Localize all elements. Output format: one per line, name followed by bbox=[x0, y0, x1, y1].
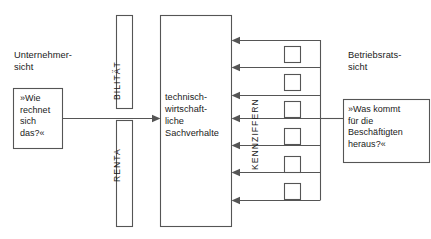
rentabilitaet-label-lower: RENTA bbox=[112, 148, 122, 182]
kennziffer-arrowhead-5 bbox=[232, 142, 241, 149]
central-subject-label: technisch- wirtschaft- liche Sachverhalt… bbox=[165, 92, 233, 140]
indicator-square-1 bbox=[285, 47, 301, 63]
left-perspective-caption: Unternehmer- sicht bbox=[14, 49, 106, 73]
kennziffer-arrowhead-1 bbox=[232, 37, 241, 44]
indicator-square-6 bbox=[285, 184, 301, 200]
kennziffern-label: KENNZIFFERN bbox=[250, 98, 260, 170]
rentabilitaet-label-upper: BILITÄT bbox=[112, 61, 122, 100]
kennziffer-arrowhead-7 bbox=[232, 197, 241, 204]
indicator-square-5 bbox=[285, 157, 301, 173]
indicator-square-3 bbox=[285, 102, 301, 118]
kennziffer-arrowhead-6 bbox=[232, 169, 241, 176]
left-quote-text: »Wie rechnet sich das?« bbox=[20, 93, 66, 140]
right-quote-text: »Was kommt für die Beschäftigten heraus?… bbox=[348, 104, 426, 151]
right-perspective-caption: Betriebsrats- sicht bbox=[348, 49, 428, 73]
left-connector-arrowhead bbox=[152, 115, 161, 122]
diagram-canvas: Unternehmer- sicht »Wie rechnet sich das… bbox=[0, 0, 431, 239]
indicator-square-4 bbox=[285, 129, 301, 145]
indicator-square-2 bbox=[285, 75, 301, 91]
kennziffer-arrowhead-2 bbox=[232, 64, 241, 71]
